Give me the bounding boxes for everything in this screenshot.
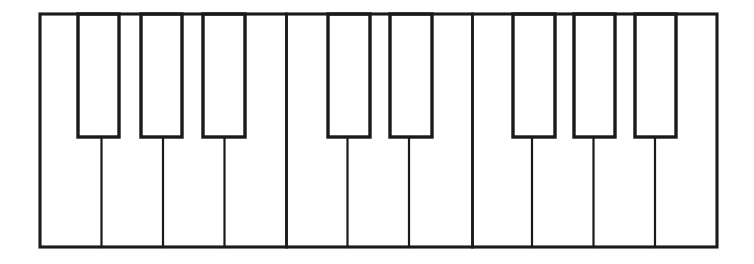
- white-key[interactable]: [594, 14, 656, 247]
- piano-keyboard-figure: [0, 0, 754, 264]
- white-key[interactable]: [225, 14, 287, 247]
- piano-keyboard-diagram: [0, 0, 754, 264]
- white-key[interactable]: [348, 14, 410, 247]
- white-key[interactable]: [102, 14, 164, 247]
- white-key[interactable]: [655, 14, 717, 247]
- white-key[interactable]: [409, 14, 471, 247]
- white-key[interactable]: [471, 14, 533, 247]
- white-key[interactable]: [532, 14, 594, 247]
- white-key[interactable]: [163, 14, 225, 247]
- white-key[interactable]: [40, 14, 102, 247]
- white-key[interactable]: [286, 14, 348, 247]
